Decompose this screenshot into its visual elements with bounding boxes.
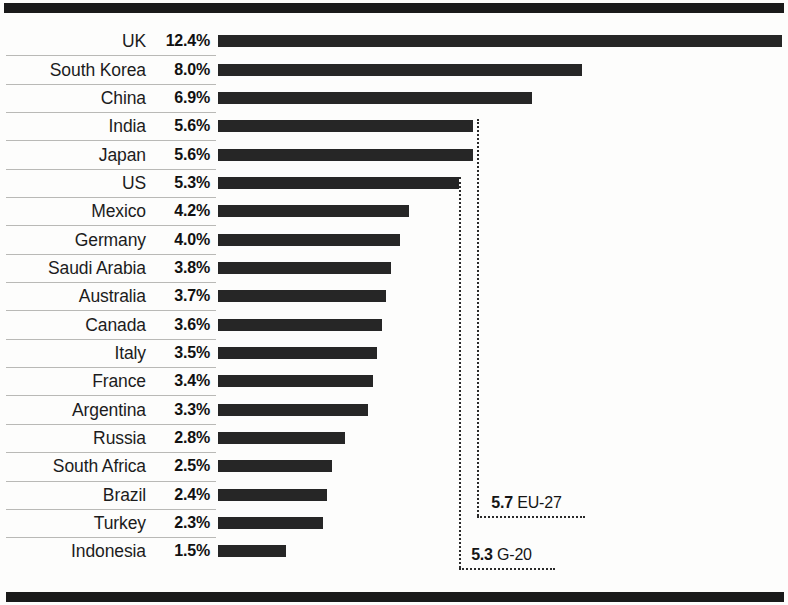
g-20-reference-label: 5.3 G-20 xyxy=(471,546,532,564)
row-separator xyxy=(6,310,216,311)
bar-row: South Africa2.5% xyxy=(0,452,788,480)
value-bar xyxy=(218,319,382,331)
g-20-name: G-20 xyxy=(497,546,532,563)
bar-row: Germany4.0% xyxy=(0,225,788,253)
top-rule xyxy=(4,3,784,13)
value-label: 2.3% xyxy=(152,514,210,532)
row-separator xyxy=(6,169,216,170)
bar-row: South Korea8.0% xyxy=(0,55,788,83)
value-label: 5.6% xyxy=(152,146,210,164)
value-bar xyxy=(218,120,473,132)
bar-row: China6.9% xyxy=(0,84,788,112)
value-label: 3.6% xyxy=(152,316,210,334)
row-separator xyxy=(6,452,216,453)
value-bar xyxy=(218,432,345,444)
value-bar xyxy=(218,177,459,189)
row-separator xyxy=(6,140,216,141)
value-label: 8.0% xyxy=(152,61,210,79)
country-label: Australia xyxy=(0,286,146,307)
country-label: Argentina xyxy=(0,399,146,420)
bar-row: US5.3% xyxy=(0,169,788,197)
value-bar xyxy=(218,404,368,416)
row-separator xyxy=(6,481,216,482)
row-separator xyxy=(6,84,216,85)
eu-27-reference-line xyxy=(477,119,479,516)
bar-row: Canada3.6% xyxy=(0,310,788,338)
value-label: 1.5% xyxy=(152,542,210,560)
value-bar xyxy=(218,149,473,161)
g-20-reference-connector xyxy=(459,568,555,570)
country-label: India xyxy=(0,116,146,137)
bar-row: Brazil2.4% xyxy=(0,481,788,509)
value-label: 3.8% xyxy=(152,259,210,277)
value-bar xyxy=(218,35,782,47)
value-label: 3.4% xyxy=(152,372,210,390)
value-label: 3.5% xyxy=(152,344,210,362)
eu-27-reference-label: 5.7 EU-27 xyxy=(491,494,561,512)
bar-row: Japan5.6% xyxy=(0,140,788,168)
bar-chart: UK12.4%South Korea8.0%China6.9%India5.6%… xyxy=(0,0,788,605)
bar-row: India5.6% xyxy=(0,112,788,140)
row-separator xyxy=(6,225,216,226)
country-label: US xyxy=(0,172,146,193)
row-separator xyxy=(6,367,216,368)
value-bar xyxy=(218,489,327,501)
value-bar xyxy=(218,290,386,302)
bar-row: Australia3.7% xyxy=(0,282,788,310)
value-bar xyxy=(218,205,409,217)
bar-rows: UK12.4%South Korea8.0%China6.9%India5.6%… xyxy=(0,27,788,566)
country-label: UK xyxy=(0,31,146,52)
value-label: 4.2% xyxy=(152,202,210,220)
value-label: 5.6% xyxy=(152,117,210,135)
value-label: 12.4% xyxy=(152,32,210,50)
country-label: China xyxy=(0,87,146,108)
row-separator xyxy=(6,197,216,198)
eu-27-value: 5.7 xyxy=(491,494,513,511)
value-bar xyxy=(218,234,400,246)
bar-row: France3.4% xyxy=(0,367,788,395)
row-separator xyxy=(6,254,216,255)
value-bar xyxy=(218,64,582,76)
g-20-value: 5.3 xyxy=(471,546,493,563)
country-label: Canada xyxy=(0,314,146,335)
country-label: Turkey xyxy=(0,513,146,534)
value-bar xyxy=(218,545,286,557)
country-label: Japan xyxy=(0,144,146,165)
row-separator xyxy=(6,537,216,538)
value-label: 2.5% xyxy=(152,457,210,475)
row-separator xyxy=(6,395,216,396)
row-separator xyxy=(6,339,216,340)
country-label: Brazil xyxy=(0,484,146,505)
value-label: 2.4% xyxy=(152,486,210,504)
country-label: South Korea xyxy=(0,59,146,80)
value-label: 4.0% xyxy=(152,231,210,249)
country-label: South Africa xyxy=(0,456,146,477)
g-20-reference-line xyxy=(459,177,461,568)
country-label: France xyxy=(0,371,146,392)
row-separator xyxy=(6,509,216,510)
row-separator xyxy=(6,282,216,283)
bar-row: Russia2.8% xyxy=(0,424,788,452)
row-separator xyxy=(6,55,216,56)
row-separator xyxy=(6,424,216,425)
country-label: Indonesia xyxy=(0,541,146,562)
value-label: 5.3% xyxy=(152,174,210,192)
bar-row: Argentina3.3% xyxy=(0,395,788,423)
value-label: 3.7% xyxy=(152,287,210,305)
value-bar xyxy=(218,347,377,359)
bar-row: Indonesia1.5% xyxy=(0,537,788,565)
value-label: 2.8% xyxy=(152,429,210,447)
bar-row: Italy3.5% xyxy=(0,339,788,367)
country-label: Russia xyxy=(0,427,146,448)
bar-row: UK12.4% xyxy=(0,27,788,55)
value-bar xyxy=(218,262,391,274)
bottom-rule xyxy=(6,592,784,602)
value-bar xyxy=(218,517,323,529)
country-label: Germany xyxy=(0,229,146,250)
value-bar xyxy=(218,460,332,472)
country-label: Saudi Arabia xyxy=(0,257,146,278)
value-bar xyxy=(218,375,373,387)
eu-27-name: EU-27 xyxy=(517,494,561,511)
country-label: Mexico xyxy=(0,201,146,222)
bar-row: Turkey2.3% xyxy=(0,509,788,537)
